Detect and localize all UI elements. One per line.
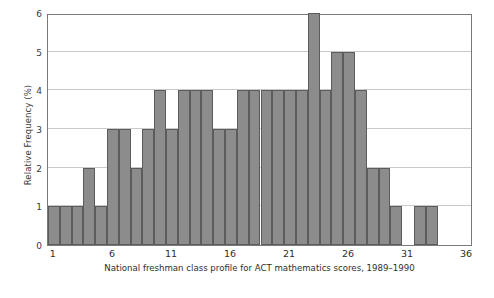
histogram-bar: [272, 90, 284, 245]
x-tick-label: 36: [460, 248, 472, 259]
histogram-bar: [225, 129, 237, 245]
histogram-bar: [131, 168, 143, 245]
y-tick-label: 3: [26, 125, 42, 135]
histogram-bar: [343, 52, 355, 245]
y-axis-tick-labels: 0123456: [26, 0, 42, 298]
histogram-bar: [178, 90, 190, 245]
histogram-bar: [249, 90, 261, 245]
histogram-bar: [355, 90, 367, 245]
y-tick-label: 1: [26, 202, 42, 212]
x-axis-tick-labels: 16111621263136: [47, 248, 472, 262]
histogram-bar: [201, 90, 213, 245]
x-tick-label: 31: [401, 248, 413, 259]
plot-area: [47, 14, 472, 246]
histogram-bar: [107, 129, 119, 245]
y-tick-label: 4: [26, 86, 42, 96]
histogram-bar: [296, 90, 308, 245]
histogram-bar: [72, 206, 84, 245]
histogram-bar: [166, 129, 178, 245]
histogram-bar: [190, 90, 202, 245]
histogram-bar: [83, 168, 95, 245]
histogram-bar: [95, 206, 107, 245]
histogram-bar: [261, 90, 273, 245]
histogram-bar: [154, 90, 166, 245]
y-tick-label: 0: [26, 241, 42, 251]
y-tick-label: 5: [26, 48, 42, 58]
histogram-bar: [237, 90, 249, 245]
histogram-bar: [414, 206, 426, 245]
histogram-bar: [48, 206, 60, 245]
histogram-bar: [320, 90, 332, 245]
x-tick-label: 6: [109, 248, 115, 259]
histogram-bar: [142, 129, 154, 245]
histogram-bar: [390, 206, 402, 245]
histogram-bar: [331, 52, 343, 245]
histogram-bar: [119, 129, 131, 245]
histogram-bar: [308, 13, 320, 245]
histogram-figure: Relative Frequency (%) 0123456 161116212…: [0, 0, 494, 298]
histogram-bar: [213, 129, 225, 245]
y-tick-label: 6: [26, 9, 42, 19]
x-tick-label: 1: [50, 248, 56, 259]
figure-caption: National freshman class profile for ACT …: [47, 263, 472, 273]
x-tick-label: 21: [283, 248, 295, 259]
x-tick-label: 16: [224, 248, 236, 259]
y-tick-label: 2: [26, 164, 42, 174]
histogram-bar: [426, 206, 438, 245]
histogram-bar: [367, 168, 379, 245]
x-tick-label: 11: [165, 248, 177, 259]
x-tick-label: 26: [342, 248, 354, 259]
histogram-bar: [60, 206, 72, 245]
histogram-bar: [379, 168, 391, 245]
bar-series: [48, 15, 471, 245]
histogram-bar: [284, 90, 296, 245]
